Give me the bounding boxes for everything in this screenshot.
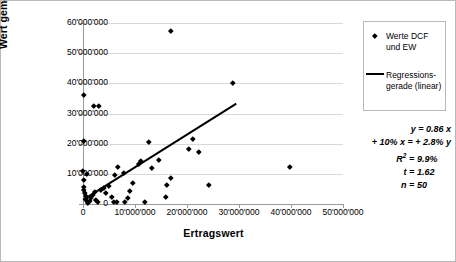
chart-legend: Werte DCF und EW Regressions- gerade (li… <box>363 21 446 111</box>
stat-t: t =1.62 <box>350 166 451 179</box>
legend-fit-line2: gerade (linear) <box>386 81 441 91</box>
y-axis-tick-label: 50'000'000 <box>67 48 108 57</box>
gridline-horizontal <box>83 23 343 24</box>
stat-equation-rhs: 0.86 x <box>426 124 451 134</box>
legend-series-label: Werte DCF und EW <box>386 31 428 52</box>
y-axis-tick-label: 0 <box>103 199 108 208</box>
diamond-marker-icon <box>364 31 386 38</box>
stat-n-eq: = <box>409 179 417 192</box>
y-axis-tick-label: 30'000'000 <box>67 109 108 118</box>
stat-n-label: n <box>401 180 407 190</box>
regression-line <box>83 103 237 201</box>
y-axis-tick-label: 60'000'000 <box>67 18 108 27</box>
stat-equation-eq: = <box>418 124 423 134</box>
stat-n-value: 50 <box>417 179 451 192</box>
stat-equation-lhs: y <box>411 124 416 134</box>
stat-r2-exponent: 2 <box>403 152 407 159</box>
gridline-horizontal <box>83 53 343 54</box>
stat-n: n =50 <box>350 179 451 192</box>
chart-container: Wert gemäss DCF-Methode Ertragswert Wert… <box>0 0 456 262</box>
gridline-horizontal <box>83 83 343 84</box>
line-marker-icon <box>364 70 386 75</box>
stat-t-eq: = <box>409 166 417 179</box>
legend-fit-label: Regressions- gerade (linear) <box>386 70 441 91</box>
legend-fit-line1: Regressions- <box>386 70 436 80</box>
y-axis-title: Wert gemäss DCF-Methode <box>0 0 9 49</box>
legend-item-fit: Regressions- gerade (linear) <box>364 70 445 91</box>
legend-series-line2: und EW <box>386 42 416 52</box>
y-axis-tick-label: 10'000'000 <box>67 169 108 178</box>
y-axis-tick-label: 20'000'000 <box>67 139 108 148</box>
x-axis-title: Ertragswert <box>83 227 344 239</box>
stat-r2-eq: = <box>409 153 417 166</box>
gridline-horizontal <box>83 114 343 115</box>
statistics-block: y = 0.86 x + 10% x = + 2.8% y R2 =9.9% t… <box>350 123 451 192</box>
stat-r-squared: R2 =9.9% <box>350 149 451 166</box>
stat-t-value: 1.62 <box>417 166 451 179</box>
x-axis-line <box>83 204 344 205</box>
gridline-horizontal <box>83 144 343 145</box>
x-axis-tick-label: 50'000'000 <box>303 208 383 217</box>
plot-area <box>83 23 343 204</box>
stat-r2-value: 9.9% <box>417 153 451 166</box>
stat-equation: y = 0.86 x <box>350 123 451 136</box>
stat-t-label: t <box>403 167 406 177</box>
legend-item-series: Werte DCF und EW <box>364 31 445 52</box>
legend-series-line1: Werte DCF <box>386 31 428 41</box>
y-axis-tick-label: 40'000'000 <box>67 78 108 87</box>
stat-elasticity: + 10% x = + 2.8% y <box>350 136 451 149</box>
